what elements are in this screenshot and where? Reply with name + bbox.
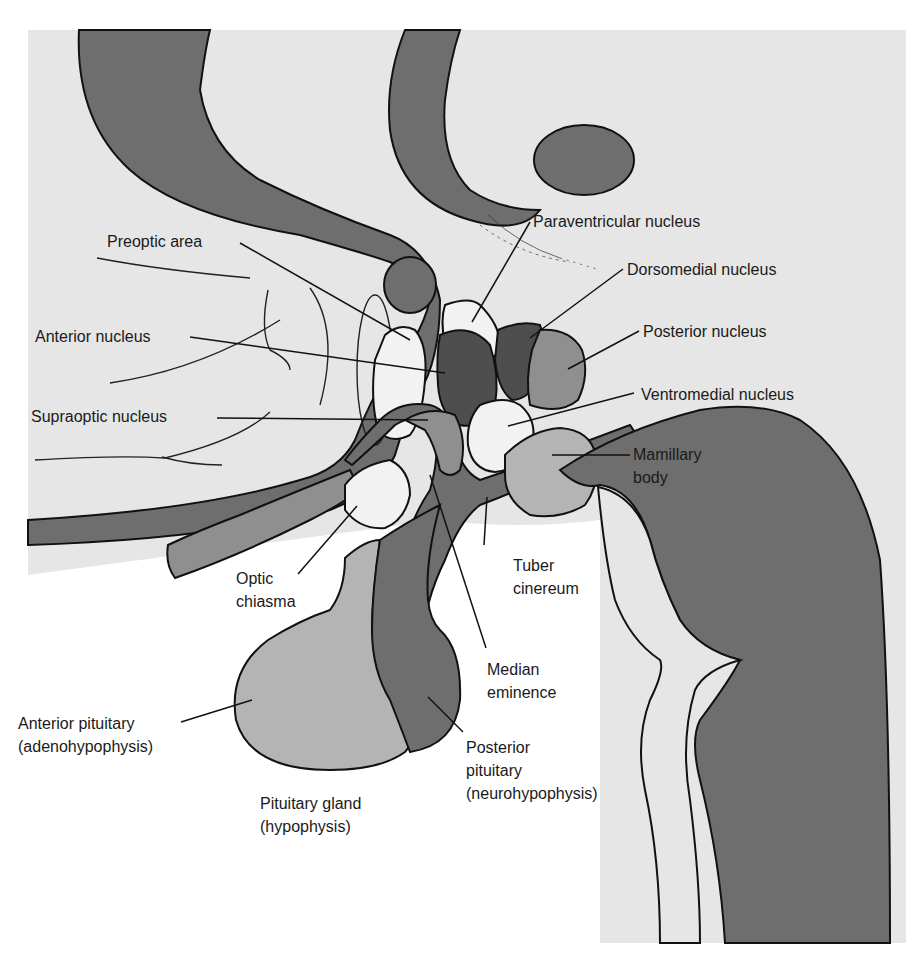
posterior-nucleus-shape	[528, 330, 585, 409]
label-tuber-cinereum: Tuber cinereum	[513, 554, 579, 600]
label-anterior-nucleus: Anterior nucleus	[35, 325, 151, 349]
label-mamillary-body: Mamillary body	[633, 443, 701, 489]
label-ventromedial-nucleus: Ventromedial nucleus	[641, 383, 794, 407]
label-median-eminence: Median eminence	[487, 658, 556, 704]
label-supraoptic-nucleus: Supraoptic nucleus	[31, 405, 167, 429]
label-posterior-pituitary: Posterior pituitary (neurohypophysis)	[466, 736, 598, 805]
label-preoptic-area: Preoptic area	[107, 230, 202, 254]
label-paraventricular-nucleus: Paraventricular nucleus	[533, 210, 700, 234]
diagram-artwork	[0, 0, 922, 963]
label-optic-chiasma: Optic chiasma	[236, 567, 296, 613]
label-dorsomedial-nucleus: Dorsomedial nucleus	[627, 258, 776, 282]
label-posterior-nucleus: Posterior nucleus	[643, 320, 767, 344]
label-anterior-pituitary: Anterior pituitary (adenohypophysis)	[18, 712, 153, 758]
hypothalamus-diagram: Preoptic area Anterior nucleus Supraopti…	[0, 0, 922, 963]
label-pituitary-gland: Pituitary gland (hypophysis)	[260, 792, 361, 838]
